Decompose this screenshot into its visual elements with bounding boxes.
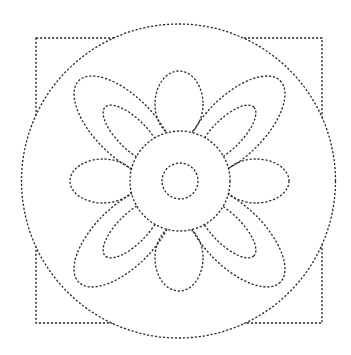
petal-left: [70, 159, 136, 203]
tracing-worksheet: [0, 0, 351, 355]
petals: [58, 60, 302, 304]
petal-outer-bottom-left: [58, 171, 191, 304]
flower-center: [130, 131, 230, 231]
petal-inner-top-left: [95, 97, 170, 172]
center-circle: [130, 131, 230, 231]
flower-tracing-drawing: [0, 0, 351, 355]
petal-outer-bottom-right: [169, 171, 302, 304]
petal-outer-top-right: [169, 60, 302, 193]
petal-inner-top-right: [190, 97, 265, 172]
petal-outer-top-left: [58, 60, 191, 193]
petal-right: [223, 159, 289, 203]
petal-top: [155, 71, 203, 137]
inner-circle: [162, 163, 198, 199]
petal-inner-bottom-right: [190, 192, 265, 267]
